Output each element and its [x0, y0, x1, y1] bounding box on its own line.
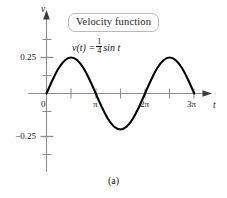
t-axis-arrowhead	[203, 90, 213, 97]
equation-fraction: 14	[96, 38, 102, 56]
x-tick-label-three-pi: 3π	[187, 99, 196, 109]
equation-lhs: v(t) =	[72, 42, 95, 53]
fraction-numerator: 1	[96, 38, 102, 46]
figure-caption: (a)	[0, 175, 227, 187]
x-tick-label-two-pi: 2π	[140, 99, 149, 109]
y-tick-label-positive: 0.25	[8, 52, 36, 62]
v-axis-label: v	[41, 4, 45, 14]
velocity-function-label-box: Velocity function	[68, 13, 159, 32]
y-tick-label-negative: −0.25	[4, 131, 36, 141]
fraction-denominator: 4	[96, 46, 102, 55]
x-tick-label-pi: π	[93, 99, 98, 109]
x-tick-label-origin: 0	[41, 99, 46, 109]
t-axis-label: t	[213, 100, 216, 110]
equation-rhs: sin t	[103, 42, 120, 53]
equation-annotation: v(t) =14sin t	[72, 38, 120, 56]
velocity-function-figure: Velocity function v(t) =14sin t v t 0.25…	[0, 0, 227, 198]
